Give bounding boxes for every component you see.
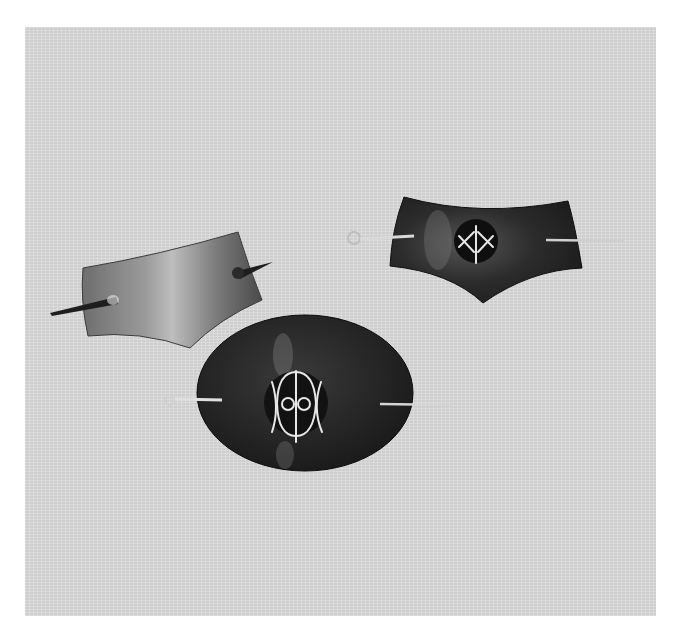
emblem-icon (454, 219, 498, 263)
right-barrette (348, 197, 624, 303)
barrettes-illustration (0, 0, 678, 641)
center-barrette (165, 315, 452, 471)
